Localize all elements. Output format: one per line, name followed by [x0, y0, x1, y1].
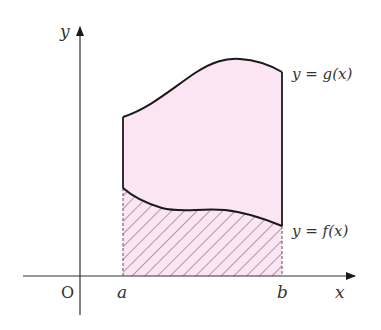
b-label: b	[277, 282, 288, 302]
y-axis-label: y	[59, 21, 70, 41]
area-between-curves-diagram: y x O a b y = g(x) y = f(x)	[0, 0, 381, 330]
origin-label: O	[61, 283, 74, 302]
x-axis-label: x	[335, 282, 345, 302]
g-curve-label: y = g(x)	[291, 65, 352, 83]
a-label: a	[117, 282, 127, 302]
f-curve-label: y = f(x)	[291, 222, 348, 240]
region-between-curves	[123, 59, 282, 226]
